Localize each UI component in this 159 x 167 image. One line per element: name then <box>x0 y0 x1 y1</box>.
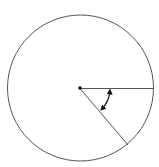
diagonal-radius <box>80 89 128 146</box>
circle-diagram <box>0 0 159 167</box>
center-point <box>78 86 82 90</box>
angle-arc-double-arrow <box>102 91 110 110</box>
